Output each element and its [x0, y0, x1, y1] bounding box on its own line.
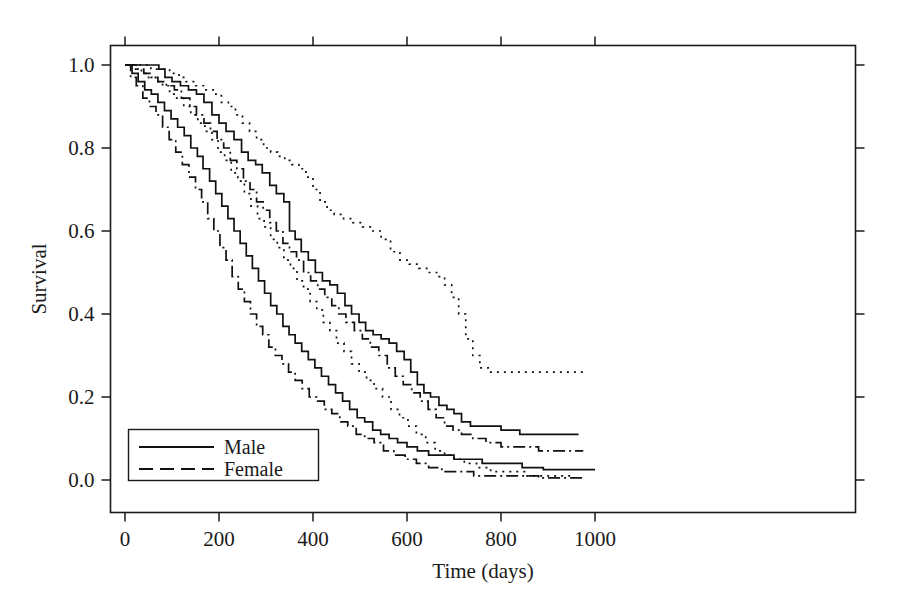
survival-curve [125, 65, 583, 478]
x-tick-label: 200 [203, 527, 235, 551]
x-tick-label: 0 [120, 527, 131, 551]
survival-curve [125, 65, 572, 476]
x-tick-label: 400 [297, 527, 329, 551]
y-tick-label: 0.8 [68, 136, 94, 160]
legend-label-male: Male [224, 436, 265, 458]
legend: Male Female [129, 430, 319, 481]
y-tick-label: 0.6 [68, 219, 94, 243]
chart-canvas: 02004006008001000 0.00.20.40.60.81.0 Tim… [0, 0, 898, 611]
x-axis-tick-labels: 02004006008001000 [120, 527, 616, 551]
x-tick-label: 1000 [574, 527, 616, 551]
y-tick-label: 0.2 [68, 385, 94, 409]
y-tick-label: 0.0 [68, 468, 94, 492]
y-tick-label: 0.4 [68, 302, 95, 326]
y-axis-title: Survival [27, 243, 51, 314]
x-tick-label: 600 [391, 527, 423, 551]
survival-curve [125, 65, 579, 434]
x-axis-ticks-bottom [125, 513, 595, 522]
y-axis-ticks-right [856, 65, 865, 480]
x-axis-title: Time (days) [432, 559, 533, 583]
survival-curve [125, 65, 583, 451]
x-axis-ticks-top [125, 37, 595, 46]
survival-curve [125, 65, 595, 470]
legend-label-female: Female [224, 458, 283, 480]
x-tick-label: 800 [485, 527, 517, 551]
y-tick-label: 1.0 [68, 53, 94, 77]
survival-curves-group [125, 65, 595, 478]
y-axis-tick-labels: 0.00.20.40.60.81.0 [68, 53, 95, 492]
survival-chart-figure: 02004006008001000 0.00.20.40.60.81.0 Tim… [0, 0, 898, 611]
y-axis-ticks-left [102, 65, 111, 480]
